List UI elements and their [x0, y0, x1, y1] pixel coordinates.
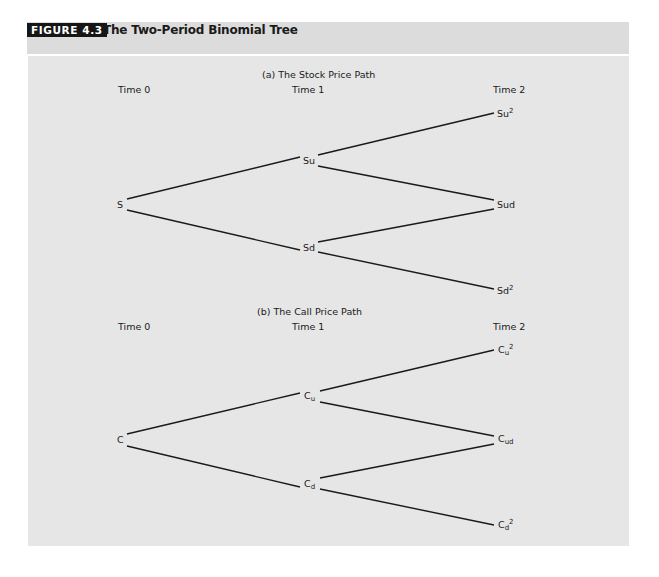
node-sd2: Sd2: [497, 285, 514, 296]
edge-cu-cud: [320, 402, 494, 436]
node-sud: Sud: [497, 199, 515, 210]
panel-b-time-0: Time 0: [118, 321, 150, 332]
edge-s-sd: [127, 210, 300, 250]
edge-cu-cu2: [320, 350, 494, 391]
panel-b-time-2: Time 2: [493, 321, 525, 332]
panel-a-time-0: Time 0: [118, 84, 150, 95]
edge-su-sud: [318, 166, 494, 200]
node-cd: Cd: [304, 478, 315, 489]
node-su: Su: [303, 155, 315, 166]
panel-b-title: (b) The Call Price Path: [257, 306, 362, 317]
edge-cd-cud: [320, 444, 494, 478]
panel-b-time-1: Time 1: [292, 321, 324, 332]
edge-cd-cd2: [320, 489, 494, 525]
node-cu: Cu: [304, 390, 315, 401]
edge-c-cd: [127, 446, 300, 487]
node-cud: Cud: [498, 433, 514, 444]
edge-sd-sud: [318, 209, 494, 242]
node-sd: Sd: [303, 242, 315, 253]
tree-edges: [0, 0, 659, 577]
edge-s-su: [127, 157, 300, 199]
panel-a-time-2: Time 2: [493, 84, 525, 95]
panel-a-time-1: Time 1: [292, 84, 324, 95]
panel-a-title: (a) The Stock Price Path: [262, 69, 375, 80]
edge-c-cu: [127, 393, 300, 434]
node-cu2: Cu2: [498, 344, 514, 355]
edge-sd-sd2: [318, 252, 494, 289]
node-c: C: [117, 434, 124, 445]
edge-su-su2: [318, 113, 494, 155]
node-cd2: Cd2: [498, 519, 514, 530]
node-s: S: [117, 199, 123, 210]
node-su2: Su2: [497, 108, 514, 119]
